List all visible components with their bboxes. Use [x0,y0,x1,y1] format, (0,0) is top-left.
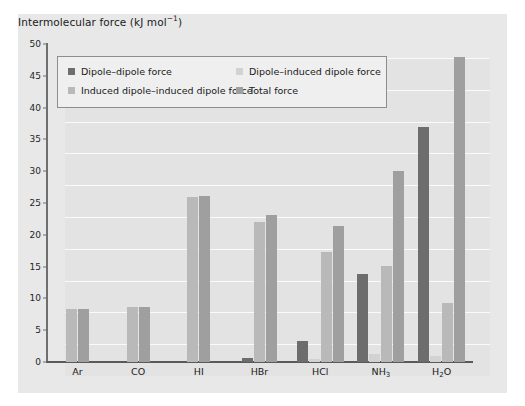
bar-h2o-series-0 [418,127,429,362]
y-axis-tick-mark [43,266,47,267]
bar-hi-series-2 [187,197,198,362]
legend-label: Dipole–dipole force [81,66,172,77]
bar-hcl-series-1 [309,359,320,362]
legend-item: Induced dipole–induced dipole force [68,85,253,96]
y-axis-tick-mark [43,139,47,140]
bar-nh3-series-3 [393,171,404,362]
bar-co-series-3 [139,307,150,362]
y-axis-tick-label: 40 [15,103,41,113]
y-axis-tick-label: 30 [15,166,41,176]
y-axis-tick-label: 0 [15,357,41,367]
y-axis-tick-label: 45 [15,71,41,81]
y-axis-tick-mark [43,234,47,235]
legend-item: Dipole–dipole force [68,66,172,77]
bar-hi-series-3 [199,196,210,362]
legend-swatch-icon [68,87,75,94]
bar-ar-series-2 [66,309,77,362]
y-axis-tick-mark [43,171,47,172]
legend-swatch-icon [68,68,75,75]
y-axis-tick-label: 10 [15,293,41,303]
y-axis-tick-label: 15 [15,262,41,272]
bar-h2o-series-3 [454,57,465,362]
y-axis-tick-mark [43,107,47,108]
y-axis-tick-mark [43,75,47,76]
bar-hbr-series-2 [254,222,265,362]
x-axis-tick-label-ar: Ar [72,366,82,377]
y-axis-tick-mark [43,330,47,331]
chart-legend: Dipole–dipole forceDipole–induced dipole… [57,56,387,108]
bar-ar-series-3 [78,309,89,362]
bar-hcl-series-2 [321,252,332,362]
legend-item: Dipole–induced dipole force [236,66,381,77]
bar-hcl-series-0 [297,341,308,362]
bar-h2o-series-2 [442,303,453,362]
bar-co-series-2 [127,307,138,362]
legend-swatch-icon [236,87,243,94]
y-axis-tick-label: 35 [15,134,41,144]
y-axis-tick-mark [43,44,47,45]
legend-item: Total force [236,85,298,96]
chart-title: Intermolecular force (kJ mol−1) [18,14,182,28]
x-axis-tick-label-h2o: H2O [432,366,451,377]
x-axis-tick-label-nh3: NH3 [372,366,391,377]
legend-label: Total force [249,85,298,96]
chart-title-text: Intermolecular force (kJ mol [18,16,167,28]
x-axis-tick-label-co: CO [131,366,145,377]
legend-label: Dipole–induced dipole force [249,66,381,77]
bar-nh3-series-1 [369,354,380,362]
y-axis-tick-label: 5 [15,325,41,335]
y-axis-tick-label: 25 [15,198,41,208]
y-axis-tick-label: 50 [15,39,41,49]
x-axis-tick-label-hcl: HCl [312,366,328,377]
y-axis-tick-mark [43,203,47,204]
y-axis-tick-mark [43,298,47,299]
chart-title-tail: ) [178,16,182,28]
bar-nh3-series-0 [357,274,368,362]
x-axis-tick-label-hi: HI [194,366,204,377]
bar-hbr-series-0 [242,358,253,362]
x-axis-tick-label-hbr: HBr [251,366,269,377]
gridline [65,122,490,123]
bar-hcl-series-3 [333,226,344,362]
bar-hbr-series-3 [266,215,277,362]
legend-swatch-icon [236,68,243,75]
chart-title-exponent: −1 [167,14,178,23]
y-axis-tick-mark [43,362,47,363]
bar-h2o-series-1 [430,356,441,362]
y-axis-tick-label: 20 [15,230,41,240]
legend-label: Induced dipole–induced dipole force [81,85,253,96]
bar-nh3-series-2 [381,266,392,362]
